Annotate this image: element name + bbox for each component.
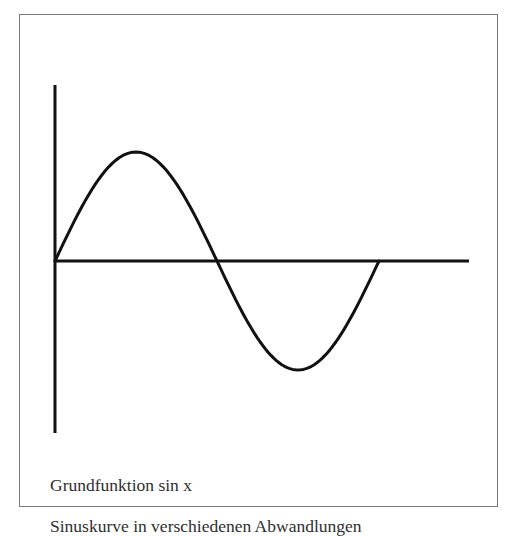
figure-caption: Sinuskurve in verschiedenen Abwandlungen <box>50 515 362 536</box>
frame-label: Grundfunktion sin x <box>50 474 192 496</box>
sine-plot <box>0 0 520 536</box>
